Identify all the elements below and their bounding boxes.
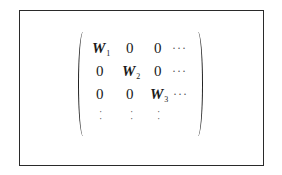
matrix-frame — [19, 10, 264, 166]
left-parenthesis — [78, 32, 88, 136]
matrix-entry-zero: 0 — [126, 86, 134, 102]
vertical-ellipsis: ·· — [99, 108, 101, 122]
right-parenthesis — [193, 32, 203, 136]
horizontal-ellipsis: ··· — [172, 63, 187, 79]
matrix-entry-zero: 0 — [96, 63, 104, 79]
vertical-ellipsis: ·· — [130, 108, 132, 122]
matrix-entry-w2: W2 — [122, 63, 140, 85]
horizontal-ellipsis: ··· — [172, 40, 187, 56]
matrix-entry-zero: 0 — [126, 40, 134, 56]
matrix-entry-zero: 0 — [96, 86, 104, 102]
matrix-entry-zero: 0 — [154, 40, 162, 56]
matrix-entry-zero: 0 — [154, 63, 162, 79]
matrix-entry-w1: W1 — [92, 40, 110, 62]
vertical-ellipsis: ·· — [157, 108, 159, 122]
matrix-entry-w3: W3 — [150, 86, 168, 108]
horizontal-ellipsis: ··· — [173, 86, 188, 102]
